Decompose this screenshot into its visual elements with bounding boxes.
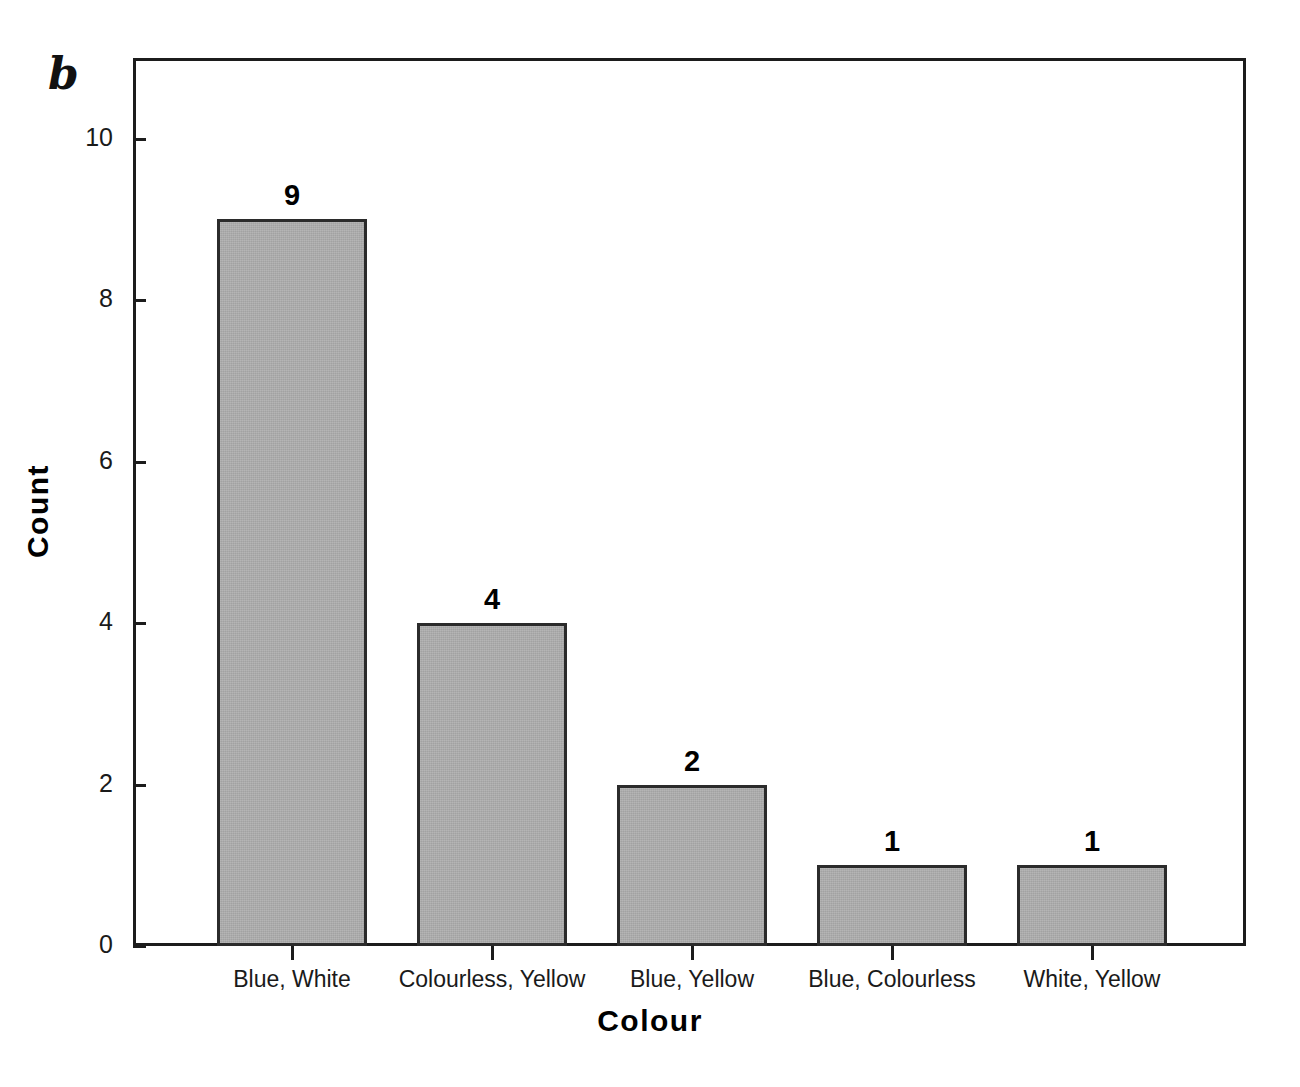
bar [1017,865,1167,946]
panel-label: b [48,52,79,96]
y-axis-tick-label: 8 [53,284,113,313]
y-axis-tick-mark [133,945,146,948]
bar [617,785,767,946]
y-axis-tick-mark [133,461,146,464]
y-axis-tick-label: 10 [53,123,113,152]
x-axis-tick-mark [891,946,894,960]
bar [817,865,967,946]
bar-value-label: 2 [592,747,792,776]
x-axis-tick-mark [691,946,694,960]
y-axis-tick-mark [133,138,146,141]
y-axis-tick-label: 6 [53,446,113,475]
x-axis-tick-mark [291,946,294,960]
bar-value-label: 1 [792,827,992,856]
y-axis-tick-label: 4 [53,607,113,636]
plot-area: 0246810Blue, White9Colourless, Yellow4Bl… [133,58,1246,946]
y-axis-title: Count [21,211,55,811]
x-axis-tick-mark [491,946,494,960]
x-axis-tick-mark [1091,946,1094,960]
y-axis-tick-mark [133,622,146,625]
bar [417,623,567,946]
y-axis-tick-mark [133,784,146,787]
x-axis-tick-label: White, Yellow [942,966,1242,993]
y-axis-tick-label: 2 [53,769,113,798]
bar [217,219,367,946]
bar-chart-figure: b 0246810Blue, White9Colourless, Yellow4… [0,0,1300,1087]
x-axis-title: Colour [0,1004,1300,1038]
y-axis-tick-mark [133,299,146,302]
y-axis-tick-label: 0 [53,930,113,959]
bar-value-label: 1 [992,827,1192,856]
bar-value-label: 4 [392,585,592,614]
bar-value-label: 9 [192,181,392,210]
